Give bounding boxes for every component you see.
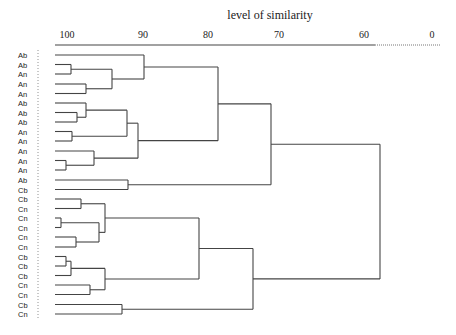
x-tick-label: 80 xyxy=(203,29,213,40)
x-tick-label: 100 xyxy=(60,29,75,40)
leaf-label: Ab xyxy=(18,176,27,185)
dendrogram-chart: level of similarity 100908070600 AbAbAnA… xyxy=(0,0,456,335)
leaf-label: Cn xyxy=(18,243,28,252)
leaf-label: Cb xyxy=(18,301,28,310)
leaf-label: Ab xyxy=(18,118,27,127)
leaf-label: An xyxy=(18,80,27,89)
leaf-label: Cb xyxy=(18,195,28,204)
axis-title: level of similarity xyxy=(227,8,312,22)
leaf-label: Cn xyxy=(18,310,28,319)
leaf-label: An xyxy=(18,90,27,99)
leaf-label: An xyxy=(18,147,27,156)
leaf-label: Cn xyxy=(18,281,28,290)
leaf-label: Cb xyxy=(18,272,28,281)
x-tick-label: 70 xyxy=(274,29,284,40)
leaf-label: An xyxy=(18,157,27,166)
leaf-label: Cn xyxy=(18,291,28,300)
leaf-label: An xyxy=(18,166,27,175)
leaf-label: Ab xyxy=(18,109,27,118)
leaf-label: Cn xyxy=(18,233,28,242)
leaf-label: Cn xyxy=(18,214,28,223)
x-tick-label: 0 xyxy=(430,29,435,40)
leaf-label: Ab xyxy=(18,51,27,60)
leaf-label: Ab xyxy=(18,99,27,108)
x-tick-label: 90 xyxy=(138,29,148,40)
dendrogram-branches xyxy=(55,55,380,314)
leaf-label: An xyxy=(18,137,27,146)
leaf-label: Cn xyxy=(18,224,28,233)
leaf-labels: AbAbAnAnAnAbAbAbAnAnAnAnAnAbCbCbCnCnCnCn… xyxy=(18,51,28,319)
leaf-label: An xyxy=(18,128,27,137)
x-tick-label: 60 xyxy=(359,29,369,40)
leaf-label: Cn xyxy=(18,205,28,214)
leaf-label: Cb xyxy=(18,253,28,262)
leaf-label: Cb xyxy=(18,186,28,195)
x-axis-ticks: 100908070600 xyxy=(60,29,435,40)
leaf-label: Cb xyxy=(18,262,28,271)
leaf-label: Ab xyxy=(18,61,27,70)
leaf-label: An xyxy=(18,70,27,79)
